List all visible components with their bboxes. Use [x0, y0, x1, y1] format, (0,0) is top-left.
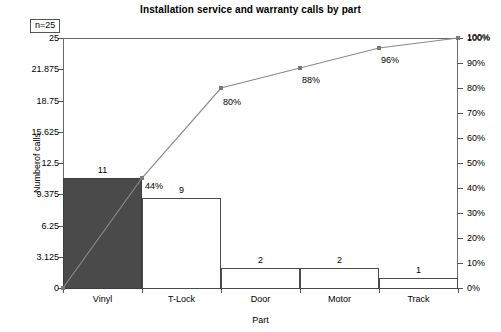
x-category-label: Motor [300, 294, 379, 304]
y2-tick-label: 0% [467, 284, 480, 293]
x-axis-title: Part [63, 315, 458, 325]
y2-tick-label: 10% [467, 259, 485, 268]
cumulative-percent-label: 100% [467, 33, 490, 42]
y2-tick-label: 70% [467, 109, 485, 118]
cumulative-marker[interactable] [219, 86, 223, 90]
y-tick-label: 18.75 [36, 97, 59, 106]
y-tick-label: 12.5 [41, 159, 59, 168]
cumulative-marker[interactable] [377, 46, 381, 50]
y-axis-title: Numberof calls [32, 133, 42, 193]
cumulative-percent-label: 44% [145, 182, 163, 191]
y-tick-label: 0 [54, 284, 59, 293]
plot-area: 03.1256.259.37512.515.62518.7521.87525 0… [63, 38, 458, 288]
cumulative-polyline [63, 38, 458, 288]
y-tick-label: 25 [49, 34, 59, 43]
pareto-chart: Installation service and warranty calls … [0, 0, 501, 332]
cumulative-line [63, 38, 458, 289]
x-tick-mark [458, 288, 459, 293]
y2-tick-label: 20% [467, 234, 485, 243]
cumulative-percent-label: 88% [302, 76, 320, 85]
cumulative-marker[interactable] [61, 286, 65, 290]
y2-tick-label: 30% [467, 209, 485, 218]
cumulative-marker[interactable] [298, 66, 302, 70]
cumulative-percent-label: 96% [381, 56, 399, 65]
y2-tick-label: 90% [467, 59, 485, 68]
y-tick-label: 6.25 [41, 222, 59, 231]
x-category-label: Track [379, 294, 458, 304]
y2-tick-label: 60% [467, 134, 485, 143]
y-tick-label: 3.125 [36, 253, 59, 262]
x-category-label: Door [221, 294, 300, 304]
x-category-label: T-Lock [142, 294, 221, 304]
y2-tick-label: 50% [467, 159, 485, 168]
y2-tick-label: 80% [467, 84, 485, 93]
sample-size-annotation: n=25 [30, 19, 60, 33]
chart-title: Installation service and warranty calls … [0, 4, 501, 15]
y2-tick-label: 40% [467, 184, 485, 193]
x-category-label: Vinyl [63, 294, 142, 304]
y-tick-label: 21.875 [31, 65, 59, 74]
cumulative-marker[interactable] [140, 176, 144, 180]
cumulative-percent-label: 80% [223, 98, 241, 107]
cumulative-marker[interactable] [456, 36, 460, 40]
